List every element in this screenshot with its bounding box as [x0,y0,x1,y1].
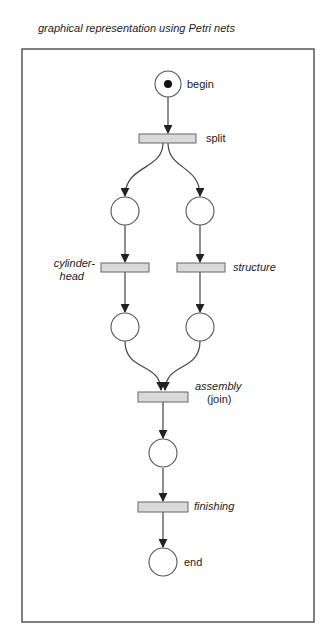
place-left-2[interactable] [111,313,139,341]
place-end[interactable] [149,548,177,576]
label-cylinder-head-2: head [60,270,85,282]
label-end: end [184,556,202,568]
arc-left2-assembly [125,341,161,390]
place-left-1[interactable] [111,197,139,225]
transition-split[interactable] [139,134,196,143]
arc-split-right [168,143,200,196]
label-split: split [206,132,226,144]
label-assembly: assembly [195,380,243,392]
petri-net-diagram: begin split cylinder- head structure ass… [0,0,335,642]
label-cylinder-head-1: cylinder- [54,257,96,269]
transition-cylinder-head[interactable] [101,263,149,272]
transition-assembly[interactable] [138,392,188,402]
label-join: (join) [207,393,231,405]
label-structure: structure [233,261,276,273]
transition-finishing[interactable] [138,502,188,512]
arc-split-left [125,143,163,196]
place-right-2[interactable] [186,313,214,341]
transition-structure[interactable] [177,263,225,272]
label-finishing: finishing [194,500,235,512]
place-mid[interactable] [149,439,177,467]
label-begin: begin [187,78,214,90]
place-right-1[interactable] [186,197,214,225]
token-icon [164,80,172,88]
